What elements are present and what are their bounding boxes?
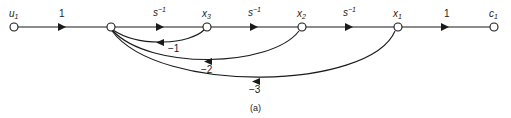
arrow-right-icon bbox=[58, 23, 66, 31]
node-u1 bbox=[10, 23, 18, 31]
feedback-gain-label: −3 bbox=[249, 84, 261, 95]
arrow-right-icon bbox=[441, 23, 449, 31]
node-label-x3: x3 bbox=[201, 8, 211, 20]
gain-label: s−1 bbox=[248, 6, 261, 18]
feedback-arc-x2 bbox=[113, 31, 299, 60]
node-x3 bbox=[203, 23, 211, 31]
node-label-c1: c1 bbox=[489, 8, 498, 20]
node-label-u1: u1 bbox=[9, 8, 19, 20]
arrow-right-icon bbox=[156, 23, 164, 31]
figure-caption: (a) bbox=[250, 103, 261, 113]
feedback-gain-label: −1 bbox=[168, 43, 180, 54]
feedback-arc-x3 bbox=[113, 30, 204, 42]
gain-label: s−1 bbox=[343, 6, 356, 18]
node-x2 bbox=[298, 23, 306, 31]
signal-flow-graph: u1 x3 x2 x1 c1 1 s−1 s−1 s−1 1 −1 −2 −3 … bbox=[0, 0, 511, 118]
gain-label: 1 bbox=[59, 8, 65, 19]
feedback-gain-label: −2 bbox=[201, 64, 213, 75]
gain-label: 1 bbox=[444, 8, 450, 19]
node-label-x1: x1 bbox=[392, 8, 402, 20]
node-junction bbox=[107, 23, 115, 31]
arrow-right-icon bbox=[345, 23, 353, 31]
node-c1 bbox=[490, 23, 498, 31]
arrow-right-icon bbox=[250, 23, 258, 31]
node-label-x2: x2 bbox=[296, 8, 306, 20]
gain-label: s−1 bbox=[153, 6, 166, 18]
node-x1 bbox=[394, 23, 402, 31]
arrow-left-icon bbox=[156, 39, 164, 46]
